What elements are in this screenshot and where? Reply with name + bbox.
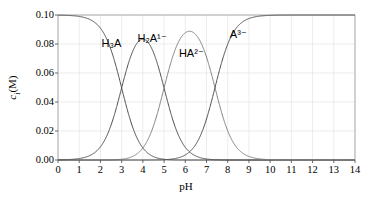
y-tick-label: 0.04 (18, 97, 54, 108)
species-label-h2a1: H₂A¹⁻ (138, 33, 167, 44)
species-label-ha2: HA²⁻ (179, 48, 204, 59)
species-label-h3a: H₃A (101, 38, 121, 49)
x-tick-label: 6 (175, 165, 195, 176)
x-tick-label: 13 (324, 165, 344, 176)
y-tick-label: 0.02 (18, 126, 54, 137)
x-tick-label: 8 (218, 165, 238, 176)
y-axis-title-unit: (M) (6, 75, 18, 92)
species-label-a3: A³⁻ (230, 29, 247, 40)
x-axis-title: pH (0, 180, 372, 192)
x-tick-label: 10 (260, 165, 280, 176)
plot-frame (55, 15, 355, 163)
y-axis-title: ci(M) (6, 58, 21, 118)
x-tick-label: 3 (112, 165, 132, 176)
x-tick-label: 12 (303, 165, 323, 176)
y-axis-title-subscript: i (13, 93, 22, 95)
x-tick-label: 9 (239, 165, 259, 176)
x-tick-label: 4 (133, 165, 153, 176)
x-tick-label: 2 (90, 165, 110, 176)
y-tick-label: 0.08 (18, 39, 54, 50)
x-tick-label: 5 (154, 165, 174, 176)
x-tick-label: 1 (69, 165, 89, 176)
x-tick-label: 11 (281, 165, 301, 176)
y-tick-label: 0.06 (18, 68, 54, 79)
y-axis-title-variable: c (6, 95, 18, 100)
y-tick-label: 0.00 (18, 155, 54, 166)
y-tick-label: 0.10 (18, 10, 54, 21)
speciation-chart-figure: 0.000.020.040.060.080.10 012345678910111… (0, 0, 372, 200)
x-tick-label: 7 (197, 165, 217, 176)
x-tick-label: 0 (48, 165, 68, 176)
x-tick-label: 14 (345, 165, 365, 176)
